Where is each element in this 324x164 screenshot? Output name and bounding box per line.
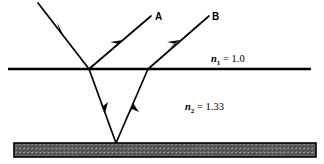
n2-equals: = <box>194 101 205 112</box>
optics-diagram: A B n1 = 1.0 n2 = 1.33 <box>0 0 324 164</box>
exit-ray-b <box>148 16 209 69</box>
reflected-ray-a <box>89 16 151 69</box>
refracted-ray-down <box>89 69 116 143</box>
n1-value: 1.0 <box>232 53 245 64</box>
optics-svg-canvas: A B n1 = 1.0 n2 = 1.33 <box>0 0 324 164</box>
ray-b-label: B <box>212 11 219 22</box>
n1-equals: = <box>220 53 231 64</box>
n2-index-label: n2 = 1.33 <box>185 101 224 115</box>
mirror-reflected-ray-up <box>116 69 148 143</box>
mirror-slab <box>14 143 316 157</box>
reflected-ray-a-arrowhead <box>110 40 123 48</box>
ray-a-label: A <box>155 11 162 22</box>
n2-value: 1.33 <box>206 101 224 112</box>
n1-index-label: n1 = 1.0 <box>211 53 245 67</box>
incident-ray <box>38 3 89 69</box>
